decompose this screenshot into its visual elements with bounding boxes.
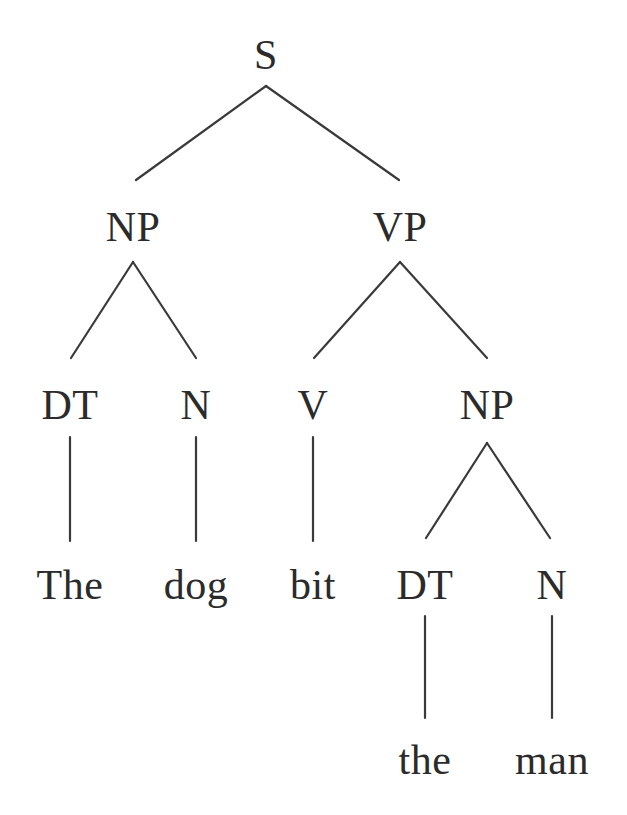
tree-edge-n2-n6	[400, 262, 487, 358]
tree-edge-n1-n3	[71, 262, 133, 358]
tree-node-preterminal-dt: DT	[397, 564, 454, 606]
tree-node-preterminal-n: N	[537, 564, 568, 606]
tree-node-nonterminal-s: S	[254, 34, 278, 76]
tree-edge-n6-n11	[487, 443, 550, 538]
tree-edge-n0-n2	[266, 86, 399, 180]
tree-node-preterminal-v: V	[298, 384, 329, 426]
tree-edge-n6-n10	[426, 443, 487, 538]
tree-node-nonterminal-vp: VP	[373, 206, 428, 248]
tree-edge-n2-n5	[314, 262, 400, 358]
tree-node-preterminal-dt: DT	[42, 384, 99, 426]
tree-node-nonterminal-np: NP	[106, 206, 161, 248]
tree-node-terminal-dog: dog	[164, 564, 229, 606]
tree-edge-n0-n1	[136, 86, 266, 180]
tree-node-terminal-man: man	[515, 739, 589, 781]
tree-edge-n1-n4	[133, 262, 196, 358]
tree-node-terminal-the: the	[399, 739, 452, 781]
parse-tree-diagram: SNPVPDTNVNPThedogbitDTNtheman	[0, 0, 627, 815]
tree-node-preterminal-n: N	[181, 384, 212, 426]
tree-node-nonterminal-np: NP	[460, 384, 515, 426]
tree-node-terminal-bit: bit	[290, 564, 336, 606]
tree-node-terminal-the: The	[37, 564, 104, 606]
